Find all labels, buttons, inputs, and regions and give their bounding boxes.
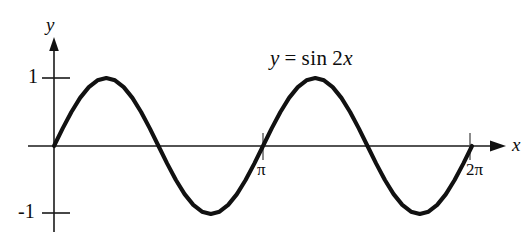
sine-curve-figure: y x 1 -1 π 2π y = sin 2x: [0, 0, 531, 245]
y-axis: [49, 37, 59, 232]
y-tick-label-1: 1: [28, 66, 38, 86]
x-tick-label-pi: π: [257, 161, 266, 178]
y-tick-label-neg1: -1: [18, 201, 35, 221]
equation-coefficient: 2: [332, 46, 343, 70]
y-axis-label: y: [46, 15, 54, 34]
equation-operator: =: [285, 46, 297, 70]
equation-lhs: y: [270, 46, 280, 70]
plot-canvas: [0, 0, 531, 245]
x-axis-label: x: [512, 135, 520, 154]
y-axis-arrow-icon: [49, 37, 59, 51]
x-axis-arrow-icon: [490, 140, 506, 151]
curve-equation-label: y = sin 2x: [270, 48, 353, 69]
equation-variable: x: [343, 46, 353, 70]
x-tick-label-2pi: 2π: [466, 161, 483, 178]
equation-function: sin: [302, 46, 328, 70]
